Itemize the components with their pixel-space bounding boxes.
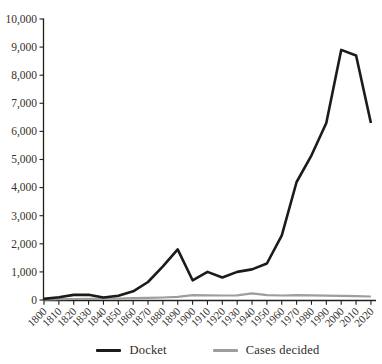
y-axis-tick-label: 5,000 xyxy=(11,153,37,166)
y-axis-tick-label: 7,000 xyxy=(11,97,37,110)
y-axis-tick-label: 10,000 xyxy=(5,13,37,26)
y-axis-tick-label: 8,000 xyxy=(11,69,37,82)
y-axis-tick-label: 4,000 xyxy=(11,181,37,194)
y-axis-tick-label: 2,000 xyxy=(11,238,37,251)
chart-legend: Docket Cases decided xyxy=(0,341,382,359)
y-axis-tick-label: 1,000 xyxy=(11,266,37,279)
legend-item-cases-decided: Cases decided xyxy=(213,343,320,358)
docket-line-swatch xyxy=(96,349,121,352)
y-axis-tick-label: 9,000 xyxy=(11,41,37,54)
line-chart-canvas: 01,0002,0003,0004,0005,0006,0007,0008,00… xyxy=(0,0,382,338)
y-axis-tick-label: 0 xyxy=(31,294,37,306)
docket-series-line xyxy=(44,50,371,299)
cases-decided-line-swatch xyxy=(213,349,238,352)
legend-item-docket: Docket xyxy=(96,343,166,358)
y-axis-tick-label: 6,000 xyxy=(11,125,37,138)
legend-label-cases-decided: Cases decided xyxy=(246,343,320,358)
legend-label-docket: Docket xyxy=(129,343,166,358)
y-axis-tick-label: 3,000 xyxy=(11,210,37,223)
chart-figure: 01,0002,0003,0004,0005,0006,0007,0008,00… xyxy=(0,0,382,364)
